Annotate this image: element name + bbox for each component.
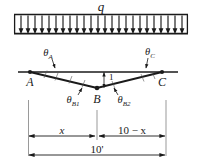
deflected-beam-curve (30, 72, 162, 88)
theta-a-group: θA (43, 47, 55, 68)
node-label-a: A (25, 75, 34, 89)
theta-b2-label: θB2 (118, 94, 131, 108)
node-label-b: B (93, 92, 101, 106)
theta-a-leader (52, 59, 55, 68)
settlement-label: 1 (109, 72, 114, 82)
theta-c-leader (146, 58, 148, 68)
diagram-canvas: q A B C 1 (0, 0, 200, 168)
load-arrow-array (21, 16, 182, 32)
deflected-beam-group: A B C 1 (18, 46, 178, 108)
distributed-load-group: q (14, 0, 188, 34)
theta-c-group: θC (145, 46, 155, 68)
theta-b1-group: θB1 (67, 88, 82, 108)
theta-c-label: θC (145, 46, 155, 60)
node-dot-a (28, 70, 32, 74)
theta-a-sub: A (47, 53, 53, 61)
dim-label-10-minus-x: 10 − x (118, 124, 147, 136)
node-dot-b (95, 86, 100, 91)
theta-b1-leader (78, 88, 82, 95)
node-dot-c (160, 70, 164, 74)
theta-c-sub: C (150, 52, 155, 60)
theta-b1-sub: B1 (72, 100, 80, 108)
theta-b2-leader (114, 88, 118, 95)
theta-b2-group: θB2 (114, 88, 131, 108)
dim-label-total: 10' (91, 143, 104, 155)
node-label-c: C (158, 75, 167, 89)
dim-label-x: x (59, 124, 65, 136)
load-symbol-label: q (98, 0, 105, 14)
theta-a-label: θA (43, 47, 53, 61)
dimension-row-total: 10' (29, 143, 165, 156)
theta-b2-sub: B2 (123, 100, 131, 108)
beam-deflection-diagram: q A B C 1 (0, 0, 200, 168)
theta-b1-label: θB1 (67, 94, 80, 108)
dimension-group: x 10 − x 10' (29, 100, 167, 156)
